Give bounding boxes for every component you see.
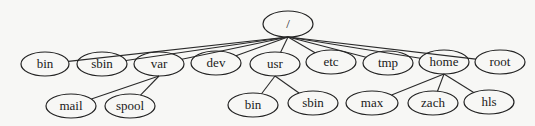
node-label: root	[490, 54, 511, 69]
tree-node-hls: hls	[464, 90, 514, 114]
tree-node-rootdir: root	[475, 50, 525, 74]
edge-home-to-max	[392, 74, 444, 95]
node-label: hls	[481, 94, 496, 109]
node-label: mail	[59, 98, 82, 113]
tree-node-etc: etc	[306, 50, 356, 74]
edge-root-to-home	[288, 37, 420, 58]
edge-home-to-hls	[444, 74, 474, 92]
tree-node-usr_bin: bin	[228, 93, 278, 117]
directory-tree-diagram: /binsbinvardevusretctmphomerootmailspool…	[0, 0, 535, 126]
node-label: max	[361, 95, 384, 110]
tree-node-zach: zach	[408, 91, 458, 115]
edge-usr-to-usr_sbin	[275, 76, 299, 93]
tree-node-tmp: tmp	[363, 51, 413, 75]
edge-usr-to-usr_bin	[262, 76, 275, 94]
tree-node-dev: dev	[191, 51, 241, 75]
edge-var-to-mail	[91, 76, 159, 99]
tree-node-bin: bin	[21, 52, 69, 76]
node-label: home	[430, 54, 459, 69]
tree-node-root: /	[263, 11, 313, 37]
node-label: usr	[267, 56, 284, 71]
nodes-layer: /binsbinvardevusretctmphomerootmailspool…	[21, 11, 525, 118]
node-label: var	[151, 56, 168, 71]
node-label: etc	[323, 54, 338, 69]
node-label: bin	[37, 56, 54, 71]
tree-node-sbin: sbin	[77, 52, 127, 76]
node-label: dev	[207, 55, 226, 70]
tree-node-var: var	[134, 52, 184, 76]
node-label: zach	[421, 95, 445, 110]
node-label: /	[286, 16, 290, 31]
node-label: bin	[245, 97, 262, 112]
tree-node-mail: mail	[46, 94, 96, 118]
node-label: tmp	[378, 55, 398, 70]
tree-node-spool: spool	[105, 94, 155, 118]
tree-node-max: max	[346, 91, 398, 115]
node-label: sbin	[91, 56, 113, 71]
tree-node-home: home	[419, 50, 469, 74]
tree-node-usr: usr	[250, 52, 300, 76]
tree-node-usr_sbin: sbin	[288, 91, 338, 115]
node-label: sbin	[302, 95, 324, 110]
tree-svg: /binsbinvardevusretctmphomerootmailspool…	[0, 0, 535, 126]
node-label: spool	[116, 98, 145, 113]
